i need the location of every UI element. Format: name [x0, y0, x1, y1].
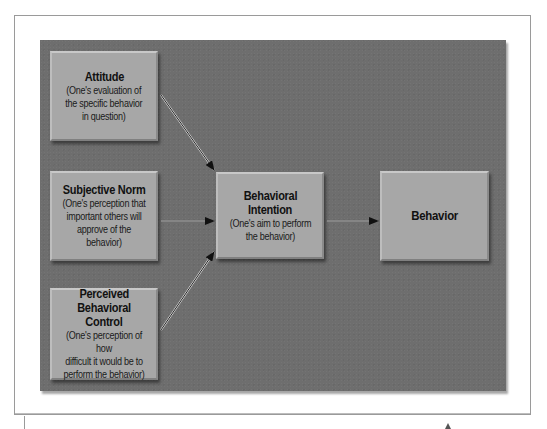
node-attitude-title: Attitude — [84, 70, 123, 84]
node-behavioral-intention: Behavioral Intention (One's aim to perfo… — [216, 172, 324, 259]
node-subjective-norm-description: (One's perception that important others … — [59, 197, 148, 249]
node-perceived-control-title-line1: Perceived — [79, 287, 129, 301]
node-perceived-control-title-line2: Behavioral Control — [58, 301, 150, 329]
node-intention-title-line1: Behavioral — [243, 189, 297, 203]
node-perceived-behavioral-control: Perceived Behavioral Control (One's perc… — [50, 288, 158, 380]
node-subjective-norm-title: Subjective Norm — [63, 183, 146, 197]
node-intention-description: (One's aim to perform the behavior) — [229, 217, 311, 243]
node-attitude: Attitude (One's evaluation of the specif… — [50, 51, 158, 141]
node-perceived-control-description: (One's perception of how difficult it wo… — [59, 329, 148, 381]
node-intention-title-line2: Intention — [248, 203, 292, 217]
node-subjective-norm: Subjective Norm (One's perception that i… — [50, 171, 158, 261]
node-attitude-description: (One's evaluation of the specific behavi… — [66, 84, 143, 123]
frame-tick-line — [24, 416, 25, 429]
node-behavior: Behavior — [380, 171, 489, 261]
node-behavior-title: Behavior — [411, 209, 458, 223]
caret-up-icon — [445, 423, 451, 429]
